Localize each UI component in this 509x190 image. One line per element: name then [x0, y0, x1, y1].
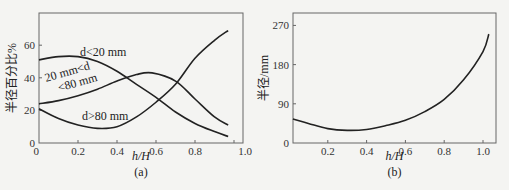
y-tick-label: 60: [24, 39, 36, 51]
y-axis-label: 半径/mm: [257, 54, 271, 101]
y-tick-label: 40: [24, 72, 36, 84]
figure: 00.20.40.60.81.00204060h/H半径百分比%(a)d<20 …: [0, 0, 509, 190]
y-tick-label: 20: [24, 104, 36, 116]
y-tick-label: 90: [278, 98, 290, 110]
panel-caption: (a): [134, 165, 147, 179]
x-tick-label: 1.0: [238, 145, 252, 157]
x-tick-label: 0.8: [437, 145, 451, 157]
series-label: d<20 mm: [80, 45, 127, 59]
x-tick-label: 0.4: [110, 145, 124, 157]
series-label: d>80 mm: [82, 109, 129, 123]
series-line: [293, 34, 489, 130]
x-axis-label: h/H: [386, 149, 405, 163]
y-tick-label: 180: [273, 59, 290, 71]
x-tick-label: 0.4: [360, 145, 374, 157]
x-tick-label: 0.2: [71, 145, 85, 157]
y-axis-label: 半径百分比%: [5, 43, 19, 113]
x-tick-label: 1.0: [476, 145, 490, 157]
panel-a: 00.20.40.60.81.00204060h/H半径百分比%(a)d<20 …: [5, 13, 252, 179]
y-tick-label: 270: [273, 19, 290, 31]
panel-caption: (b): [388, 165, 402, 179]
x-axis-label: h/H: [132, 149, 151, 163]
x-tick-label: 0.6: [149, 145, 163, 157]
y-tick-label: 0: [284, 137, 290, 149]
x-tick-label: 0.2: [321, 145, 335, 157]
x-tick-label: 0.8: [188, 145, 202, 157]
y-tick-label: 0: [30, 137, 36, 149]
panel-b: 0.20.40.60.81.0090180270h/H半径/mm(b): [257, 13, 496, 179]
